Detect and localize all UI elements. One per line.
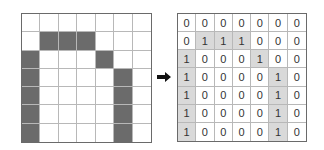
matrix-cell: 1 <box>196 32 214 50</box>
matrix-cell: 0 <box>196 14 214 32</box>
matrix-cell: 0 <box>288 105 306 123</box>
matrix-cell: 1 <box>233 32 251 50</box>
matrix-cell: 0 <box>215 105 233 123</box>
pixel-cell <box>114 32 132 50</box>
pixel-cell <box>133 51 151 69</box>
matrix-cell: 1 <box>215 32 233 50</box>
matrix-cell: 1 <box>269 68 287 86</box>
pixel-cell <box>96 87 114 105</box>
matrix-cell: 0 <box>196 50 214 68</box>
pixel-cell <box>22 87 40 105</box>
matrix-cell: 0 <box>288 14 306 32</box>
pixel-cell <box>77 69 95 87</box>
matrix-cell: 0 <box>215 68 233 86</box>
matrix-cell: 0 <box>288 123 306 141</box>
pixel-cell <box>59 32 77 50</box>
matrix-cell: 0 <box>288 32 306 50</box>
pixel-cell <box>22 32 40 50</box>
pixel-cell <box>40 69 58 87</box>
matrix-cell: 0 <box>178 14 196 32</box>
pixel-cell <box>77 87 95 105</box>
matrix-cell: 1 <box>178 123 196 141</box>
matrix-cell: 1 <box>178 87 196 105</box>
matrix-cell: 0 <box>196 123 214 141</box>
matrix-cell: 0 <box>269 32 287 50</box>
pixel-cell <box>133 14 151 32</box>
matrix-cell: 0 <box>251 87 269 105</box>
pixel-image-grid <box>21 13 152 143</box>
matrix-cell: 0 <box>196 87 214 105</box>
pixel-cell <box>22 105 40 123</box>
pixel-cell <box>96 69 114 87</box>
matrix-cell: 0 <box>251 68 269 86</box>
matrix-cell: 0 <box>251 123 269 141</box>
pixel-cell <box>133 124 151 142</box>
matrix-cell: 0 <box>215 87 233 105</box>
pixel-cell <box>77 14 95 32</box>
matrix-cell: 0 <box>288 87 306 105</box>
pixel-cell <box>114 69 132 87</box>
pixel-cell <box>22 51 40 69</box>
pixel-cell <box>114 124 132 142</box>
matrix-cell: 0 <box>233 105 251 123</box>
pixel-cell <box>40 51 58 69</box>
matrix-cell: 1 <box>178 50 196 68</box>
pixel-cell <box>22 124 40 142</box>
pixel-cell <box>96 14 114 32</box>
binary-matrix-grid: 0000000011100010001001000010100001010000… <box>177 13 307 142</box>
matrix-cell: 0 <box>196 105 214 123</box>
matrix-cell: 0 <box>233 123 251 141</box>
matrix-cell: 1 <box>178 105 196 123</box>
pixel-cell <box>114 51 132 69</box>
pixel-cell <box>77 51 95 69</box>
matrix-cell: 0 <box>288 50 306 68</box>
matrix-cell: 0 <box>215 123 233 141</box>
pixel-cell <box>59 69 77 87</box>
matrix-cell: 0 <box>269 14 287 32</box>
pixel-cell <box>40 14 58 32</box>
matrix-cell: 0 <box>288 68 306 86</box>
pixel-cell <box>22 69 40 87</box>
matrix-cell: 1 <box>251 50 269 68</box>
matrix-cell: 0 <box>251 32 269 50</box>
pixel-cell <box>59 51 77 69</box>
matrix-cell: 1 <box>178 68 196 86</box>
pixel-cell <box>133 69 151 87</box>
pixel-cell <box>114 87 132 105</box>
pixel-cell <box>22 14 40 32</box>
matrix-cell: 1 <box>269 105 287 123</box>
matrix-cell: 0 <box>269 50 287 68</box>
right-arrow-icon <box>157 72 171 82</box>
matrix-cell: 0 <box>233 50 251 68</box>
pixel-cell <box>40 32 58 50</box>
pixel-cell <box>59 87 77 105</box>
pixel-cell <box>77 124 95 142</box>
matrix-cell: 0 <box>233 14 251 32</box>
matrix-cell: 0 <box>215 14 233 32</box>
pixel-cell <box>96 32 114 50</box>
matrix-cell: 0 <box>196 68 214 86</box>
matrix-cell: 0 <box>251 105 269 123</box>
matrix-cell: 0 <box>233 87 251 105</box>
pixel-cell <box>59 14 77 32</box>
pixel-cell <box>114 105 132 123</box>
matrix-cell: 0 <box>178 32 196 50</box>
pixel-cell <box>77 32 95 50</box>
pixel-cell <box>59 105 77 123</box>
matrix-cell: 0 <box>251 14 269 32</box>
matrix-cell: 1 <box>269 123 287 141</box>
pixel-cell <box>133 105 151 123</box>
pixel-cell <box>40 105 58 123</box>
pixel-cell <box>114 14 132 32</box>
matrix-cell: 1 <box>269 87 287 105</box>
pixel-cell <box>96 51 114 69</box>
pixel-cell <box>40 87 58 105</box>
pixel-cell <box>40 124 58 142</box>
pixel-cell <box>133 87 151 105</box>
matrix-cell: 0 <box>233 68 251 86</box>
pixel-cell <box>77 105 95 123</box>
pixel-cell <box>96 124 114 142</box>
pixel-cell <box>59 124 77 142</box>
pixel-cell <box>96 105 114 123</box>
pixel-cell <box>133 32 151 50</box>
